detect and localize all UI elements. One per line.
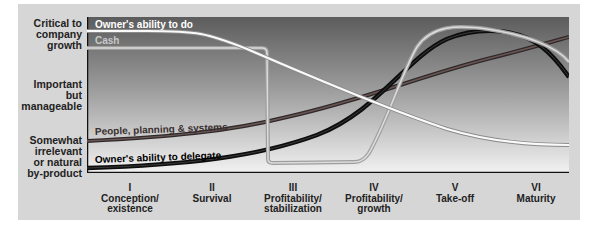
stage-numeral: III [248,183,338,194]
stage-3: III Profitability/ stabilization [248,183,338,215]
stage-numeral: IV [329,183,419,194]
stage-2: II Survival [167,183,257,204]
stage-numeral: V [410,183,500,194]
plot-area: Owner's ability to do Cash People, plann… [87,17,569,173]
y-axis-labels: Critical to company growth Important but… [0,0,82,231]
stage-4: IV Profitability/ growth [329,183,419,215]
stage-name-2: existence [85,204,175,215]
plot-background [87,17,569,173]
stage-name: Maturity [491,194,581,205]
stage-name: Survival [167,194,257,205]
y-label-important: Important but manageable [2,79,82,112]
stage-1: I Conception/ existence [85,183,175,215]
y-label-critical: Critical to company growth [2,18,82,51]
stage-5: V Take-off [410,183,500,204]
y-label-line: manageable [2,101,82,112]
label-owner-do: Owner's ability to do [95,19,193,30]
stage-name: Take-off [410,194,500,205]
stage-name-2: growth [329,204,419,215]
y-label-line: growth [2,40,82,51]
stage-6: VI Maturity [491,183,581,204]
stage-numeral: I [85,183,175,194]
stage-numeral: VI [491,183,581,194]
y-label-irrelevant: Somewhat irrelevant or natural by-produc… [2,135,82,179]
stage-name-2: stabilization [248,204,338,215]
label-cash: Cash [95,35,119,46]
y-label-line: by-product [2,168,82,179]
stage-numeral: II [167,183,257,194]
